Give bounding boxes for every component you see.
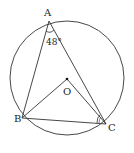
label-c: C bbox=[108, 122, 116, 133]
label-o: O bbox=[63, 86, 71, 97]
segment-oc bbox=[67, 79, 106, 124]
circle-diagram: A B C O 48° bbox=[0, 0, 134, 153]
label-a: A bbox=[43, 7, 52, 18]
label-angle-a: 48° bbox=[46, 37, 62, 47]
segment-ob bbox=[22, 79, 67, 118]
center-point-o bbox=[66, 78, 69, 81]
segment-ab bbox=[22, 21, 49, 118]
angle-arc-a bbox=[46, 30, 54, 32]
label-b: B bbox=[14, 113, 21, 124]
segment-bc bbox=[22, 118, 106, 124]
